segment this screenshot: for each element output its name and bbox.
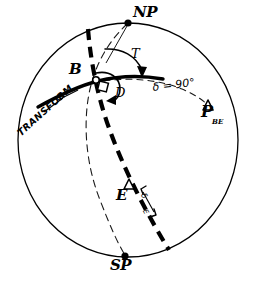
label-point-e: E	[116, 188, 127, 203]
north-pole-marker	[124, 19, 131, 26]
great-circle-be	[88, 29, 169, 250]
great-circle-b-sp	[86, 24, 127, 255]
label-north-pole: NP	[133, 5, 157, 20]
right-angle-marker	[98, 81, 109, 92]
diagram-canvas	[0, 0, 253, 289]
label-south-pole: SP	[110, 258, 131, 273]
label-pole-be-subscript: BE	[212, 117, 223, 126]
primitive-circle	[18, 23, 238, 257]
label-angle-d: D	[115, 86, 125, 99]
label-point-b: B	[69, 62, 82, 77]
stereonet-diagram: NP SP B E T D P BE δ = 90° TRANSFORM δ E	[0, 0, 253, 289]
label-angle-t: T	[131, 47, 140, 60]
point-b-marker	[93, 77, 100, 84]
